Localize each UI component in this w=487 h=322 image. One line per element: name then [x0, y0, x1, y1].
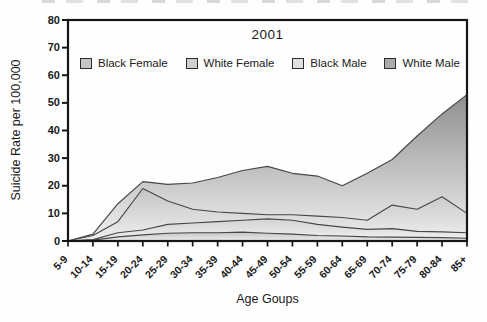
y-tick-label-10: 10	[28, 207, 60, 219]
legend-swatch-white-female-icon	[186, 58, 198, 69]
legend-item-black-female: Black Female	[80, 57, 168, 69]
legend-swatch-black-female-icon	[80, 58, 92, 69]
legend-label-black-male: Black Male	[310, 57, 366, 69]
legend-item-white-male: White Male	[384, 57, 460, 69]
y-tick-label-30: 30	[28, 152, 60, 164]
y-tick-label-50: 50	[28, 96, 60, 108]
y-tick-label-60: 60	[28, 69, 60, 81]
legend-label-white-male: White Male	[402, 57, 460, 69]
legend-swatch-white-male-icon	[384, 58, 396, 69]
legend-label-black-female: Black Female	[98, 57, 168, 69]
y-axis-title: Suicide Rate per 100,000	[9, 59, 23, 200]
y-tick-label-40: 40	[28, 124, 60, 136]
legend-label-white-female: White Female	[204, 57, 275, 69]
legend-item-black-male: Black Male	[292, 57, 366, 69]
y-tick-label-70: 70	[28, 41, 60, 53]
y-tick-label-80: 80	[28, 14, 60, 26]
suicide-rate-area-chart: 2001 Black Female White Female Black Mal…	[0, 0, 487, 322]
legend-item-white-female: White Female	[186, 57, 275, 69]
legend: Black Female White Female Black Male Whi…	[80, 57, 460, 69]
y-tick-label-0: 0	[28, 235, 60, 247]
y-tick-label-20: 20	[28, 179, 60, 191]
legend-swatch-black-male-icon	[292, 58, 304, 69]
